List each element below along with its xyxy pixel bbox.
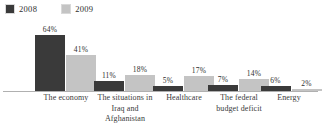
bar-energy-2008[interactable]: 6%: [261, 20, 291, 91]
x-tick-label-energy: Energy: [258, 93, 320, 104]
bar-group-iraq-afghanistan: 11% 18%: [93, 20, 156, 91]
bar-rect-energy-2009: [292, 89, 322, 91]
bar-rect-iraq-afghanistan-2008: [94, 81, 124, 91]
chart-legend: 2008 2009: [5, 2, 93, 16]
bar-rect-the-economy-2008: [35, 35, 65, 91]
bar-the-economy-2008[interactable]: 64%: [35, 20, 65, 91]
bar-federal-budget-deficit-2008[interactable]: 7%: [208, 20, 238, 91]
bar-label-iraq-afghanistan-2008: 11%: [102, 71, 116, 80]
bar-label-the-economy-2008: 64%: [43, 25, 57, 34]
legend-swatch-2008-icon: [5, 4, 15, 14]
bar-label-iraq-afghanistan-2009: 18%: [133, 65, 147, 74]
bar-label-energy-2009: 2%: [301, 79, 311, 88]
bar-group-energy: 6% 2%: [262, 20, 320, 91]
x-tick-line: Afghanistan: [86, 114, 164, 125]
x-axis-baseline: [3, 91, 318, 92]
x-tick-line: budget deficit: [201, 104, 277, 115]
bar-label-federal-budget-deficit-2008: 7%: [218, 75, 228, 84]
bar-label-the-economy-2009: 41%: [74, 45, 88, 54]
legend-item-2008[interactable]: 2008: [5, 4, 37, 14]
x-tick-line: Iraq and: [86, 104, 164, 115]
bar-energy-2009[interactable]: 2%: [292, 20, 322, 91]
bar-rect-federal-budget-deficit-2008: [208, 85, 238, 91]
bar-healthcare-2008[interactable]: 5%: [153, 20, 183, 91]
legend-item-2009[interactable]: 2009: [61, 4, 93, 14]
bar-iraq-afghanistan-2008[interactable]: 11%: [94, 20, 124, 91]
bar-label-federal-budget-deficit-2009: 14%: [247, 69, 261, 78]
bar-group-healthcare: 5% 17%: [152, 20, 215, 91]
bar-rect-healthcare-2008: [153, 86, 183, 91]
legend-label-2008: 2008: [19, 4, 37, 14]
bar-rect-the-economy-2009: [66, 55, 96, 91]
bar-rect-energy-2008: [261, 86, 291, 91]
bar-label-energy-2008: 6%: [270, 76, 280, 85]
plot-area: 64% 41% 11% 18%: [0, 20, 321, 92]
bar-label-healthcare-2009: 17%: [192, 66, 206, 75]
bar-label-healthcare-2008: 5%: [163, 76, 173, 85]
bar-rect-iraq-afghanistan-2009: [125, 75, 155, 91]
x-axis-category-labels: The economy The situations in Iraq and A…: [0, 93, 321, 131]
bar-iraq-afghanistan-2009[interactable]: 18%: [125, 20, 155, 91]
bar-the-economy-2009[interactable]: 41%: [66, 20, 96, 91]
bar-group-the-economy: 64% 41%: [34, 20, 97, 91]
legend-swatch-2009-icon: [61, 4, 71, 14]
legend-label-2009: 2009: [75, 4, 93, 14]
x-tick-line: Energy: [258, 93, 320, 104]
